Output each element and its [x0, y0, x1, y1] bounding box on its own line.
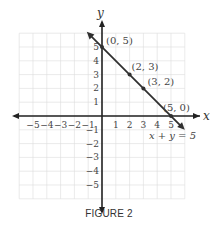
svg-text:−4: −4 [86, 166, 100, 176]
svg-text:3: 3 [93, 70, 99, 80]
figure-caption: FIGURE 2 [0, 208, 218, 219]
svg-text:3: 3 [141, 120, 147, 130]
svg-text:−5: −5 [26, 120, 40, 130]
svg-text:−2: −2 [86, 139, 99, 149]
svg-text:(0, 5): (0, 5) [106, 35, 133, 46]
svg-text:−4: −4 [40, 120, 54, 130]
y-axis-label: y [96, 6, 104, 20]
svg-text:−5: −5 [86, 180, 100, 190]
svg-text:−1: −1 [86, 125, 99, 135]
svg-text:−3: −3 [54, 120, 68, 130]
svg-text:4: 4 [154, 120, 160, 130]
svg-text:2: 2 [93, 83, 99, 93]
svg-text:−2: −2 [68, 120, 81, 130]
svg-text:4: 4 [93, 56, 99, 66]
svg-text:1: 1 [113, 120, 119, 130]
coordinate-plane: xy −5−4−3−2−11234554321−1−2−3−4−5 (0, 5)… [0, 0, 218, 229]
svg-text:5: 5 [168, 120, 174, 130]
x-axis-label: x [203, 109, 210, 123]
svg-text:2: 2 [127, 120, 133, 130]
svg-text:(2, 3): (2, 3) [132, 61, 159, 72]
svg-text:(3, 2): (3, 2) [147, 76, 174, 87]
svg-text:(5, 0): (5, 0) [163, 102, 190, 113]
equation-label: x + y = 5 [149, 130, 196, 141]
svg-text:1: 1 [93, 97, 99, 107]
svg-text:−3: −3 [86, 152, 100, 162]
